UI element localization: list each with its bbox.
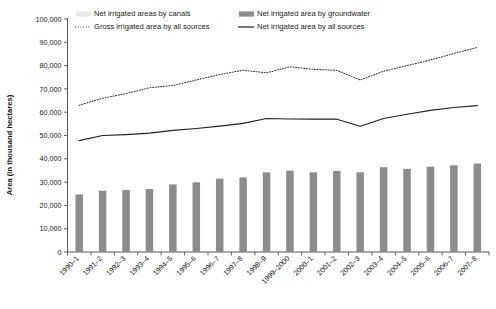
legend-swatch-bar-icon	[76, 11, 91, 16]
bar-column	[450, 165, 458, 252]
chart-legend: Net irrigated areas by canalsNet irrigat…	[75, 9, 371, 31]
bar-column	[99, 191, 107, 252]
y-axis-tick-label: 40,000	[40, 154, 62, 163]
x-axis-tick-label: 1997–8	[221, 254, 244, 277]
x-axis-tick-label: 2003–4	[362, 254, 385, 277]
bar-column	[310, 172, 318, 252]
legend-label: Net irrigated area by groundwater	[257, 9, 371, 18]
legend-item: Gross irrigated area by all sources	[75, 22, 210, 31]
x-axis-tick-label: 2006–7	[432, 254, 455, 277]
y-axis-title: Area (in thousand hectares)	[5, 94, 14, 195]
gross-irrigated-line	[79, 47, 477, 105]
bar-column	[474, 163, 482, 252]
bar-column	[169, 184, 177, 252]
bar-column	[356, 172, 364, 252]
x-axis-tick-label: 2007–8	[455, 254, 478, 277]
bar-column	[122, 190, 130, 252]
bar-column	[75, 194, 83, 252]
bar-column	[263, 172, 271, 252]
bar-column	[239, 177, 247, 252]
legend-label: Net irrigated areas by canals	[94, 9, 191, 18]
x-axis-tick-label: 1994–5	[151, 254, 174, 277]
y-axis-tick-label: 10,000	[40, 224, 62, 233]
x-axis-tick-label: 2000–1	[291, 254, 314, 277]
bar-column	[286, 171, 294, 252]
x-axis-tick-label: 2004–5	[385, 254, 408, 277]
y-axis-tick-label: 30,000	[40, 178, 62, 187]
y-axis-tick-label: 60,000	[40, 108, 62, 117]
legend-swatch-bar-icon	[239, 11, 254, 16]
bar-column	[333, 171, 341, 252]
bar-series-layer	[75, 163, 481, 252]
x-axis-tick-label: 1996–7	[198, 254, 221, 277]
x-axis-tick-label: 2002–3	[338, 254, 361, 277]
x-axis-tick-label: 1995–6	[174, 254, 197, 277]
x-axis-tick-label: 1993–4	[128, 254, 151, 277]
x-axis-tick-label: 2005–6	[409, 254, 432, 277]
bar-column	[193, 182, 201, 252]
legend-item: Net irrigated area by all sources	[238, 22, 364, 31]
x-axis-tick-label: 2001–2	[315, 254, 338, 277]
x-axis-tick-label: 1992–3	[104, 254, 127, 277]
chart-container: Net irrigated areas by canalsNet irrigat…	[0, 0, 496, 309]
line-series-layer	[79, 47, 477, 140]
y-axis-tick-label: 70,000	[40, 85, 62, 94]
bar-column	[146, 189, 154, 252]
y-axis-tick-label: 90,000	[40, 38, 62, 47]
y-axis-tick-labels: 010,00020,00030,00040,00050,00060,00070,…	[36, 15, 62, 257]
y-axis-tick-label: 0	[58, 248, 62, 257]
bar-column	[427, 167, 435, 252]
irrigated-area-chart: Net irrigated areas by canalsNet irrigat…	[0, 0, 496, 309]
x-axis-tick-label: 1990–1	[57, 254, 80, 277]
y-axis-tick-label: 20,000	[40, 201, 62, 210]
legend-item: Net irrigated area by groundwater	[239, 9, 371, 18]
y-axis-tick-label: 50,000	[40, 131, 62, 140]
x-axis-tick-labels: 1990–11991–21992–31993–41994–51995–61996…	[57, 254, 478, 286]
bar-column	[380, 167, 388, 252]
legend-label: Net irrigated area by all sources	[257, 22, 364, 31]
y-axis-tick-label: 80,000	[40, 61, 62, 70]
bar-column	[403, 169, 411, 252]
net-irrigated-line	[79, 106, 477, 141]
legend-label: Gross irrigated area by all sources	[94, 22, 210, 31]
x-axis-tick-label: 1991–2	[81, 254, 104, 277]
legend-item: Net irrigated areas by canals	[76, 9, 191, 18]
bar-column	[216, 179, 224, 252]
y-axis-tick-label: 100,000	[36, 15, 62, 24]
